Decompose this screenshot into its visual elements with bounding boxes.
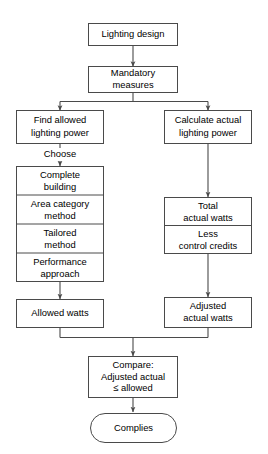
node-find-allowed-label-line1: Find allowed xyxy=(34,114,87,125)
node-complete-building-label-line2: building xyxy=(44,181,76,192)
node-adjusted-actual-watts-label-line1: Adjusted xyxy=(190,300,226,311)
node-performance-label-line2: approach xyxy=(40,268,79,279)
node-calculate-actual-lighting-power[interactable]: Calculate actual lighting power xyxy=(165,111,252,144)
edge-label-choose: Choose xyxy=(38,148,82,161)
node-complies-label: Complies xyxy=(114,422,153,433)
node-find-allowed-lighting-power[interactable]: Find allowed lighting power xyxy=(17,111,104,144)
node-complete-building[interactable]: Complete building xyxy=(40,169,80,192)
flowchart-diagram: Lighting design Mandatory measures Find … xyxy=(0,0,268,454)
flowchart-canvas: Lighting design Mandatory measures Find … xyxy=(0,0,268,454)
node-performance-label-line1: Performance xyxy=(33,256,87,267)
node-mandatory-measures-label-line2: measures xyxy=(112,79,153,90)
node-total-actual-watts-label-line2: actual watts xyxy=(183,212,233,223)
node-performance-approach[interactable]: Performance approach xyxy=(33,256,87,279)
edge-label-choose-text: Choose xyxy=(44,148,76,159)
node-tailored-label-line1: Tailored xyxy=(44,227,77,238)
node-allowed-watts[interactable]: Allowed watts xyxy=(17,300,104,328)
node-compare-label-line1: Compare: xyxy=(112,359,153,370)
node-adjusted-actual-watts[interactable]: Adjusted actual watts xyxy=(165,298,252,328)
node-calculate-actual-label-line1: Calculate actual xyxy=(175,114,242,125)
node-methods-table[interactable]: Complete building Area category method T… xyxy=(17,167,104,282)
node-calculate-actual-label-line2: lighting power xyxy=(179,127,237,138)
node-complete-building-label-line1: Complete xyxy=(40,169,80,180)
node-mandatory-measures[interactable]: Mandatory measures xyxy=(89,67,178,93)
node-compare-label-line3: ≤ allowed xyxy=(113,382,153,393)
node-less-control-credits-label-line2: control credits xyxy=(179,240,238,251)
node-allowed-watts-label: Allowed watts xyxy=(31,307,89,318)
node-compare-label-line2: Adjusted actual xyxy=(101,371,165,382)
node-area-category-label-line2: method xyxy=(44,210,75,221)
node-actual-watts-table[interactable]: Total actual watts Less control credits xyxy=(165,198,252,254)
node-find-allowed-label-line2: lighting power xyxy=(31,127,89,138)
node-less-control-credits-label-line1: Less xyxy=(198,228,218,239)
node-mandatory-measures-label-line1: Mandatory xyxy=(111,67,156,78)
node-area-category-label-line1: Area category xyxy=(31,198,90,209)
node-lighting-design-label: Lighting design xyxy=(101,28,164,39)
node-total-actual-watts-label-line1: Total xyxy=(198,200,218,211)
node-adjusted-actual-watts-label-line2: actual watts xyxy=(183,312,233,323)
node-complies[interactable]: Complies xyxy=(91,414,177,443)
node-tailored-label-line2: method xyxy=(44,239,75,250)
node-tailored-method[interactable]: Tailored method xyxy=(44,227,77,250)
node-lighting-design[interactable]: Lighting design xyxy=(89,24,178,46)
node-compare[interactable]: Compare: Adjusted actual ≤ allowed xyxy=(89,357,178,398)
